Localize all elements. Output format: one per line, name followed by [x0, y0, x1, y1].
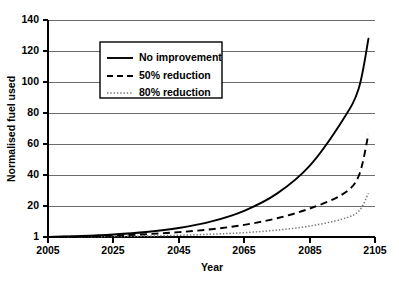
chart-figure: 140 120 100 80 60 40 20 1 2005 2025 2045…: [0, 0, 399, 283]
legend-label-50-percent-reduction: 50% reduction: [139, 69, 211, 81]
y-tick-label-60: 60: [27, 137, 39, 149]
x-axis-title: Year: [201, 261, 223, 273]
legend-label-no-improvement: No improvement: [139, 51, 222, 63]
y-tick-label-1: 1: [33, 230, 39, 242]
y-tick-label-120: 120: [21, 44, 39, 56]
x-tick-label-2005: 2005: [36, 244, 60, 256]
y-tick-label-100: 100: [21, 75, 39, 87]
y-tick-label-140: 140: [21, 13, 39, 25]
legend-label-80-percent-reduction: 80% reduction: [139, 86, 211, 98]
y-tick-label-80: 80: [27, 106, 39, 118]
x-tick-label-2105: 2105: [363, 244, 387, 256]
fuel-projection-line-chart: 140 120 100 80 60 40 20 1 2005 2025 2045…: [0, 0, 399, 283]
y-axis-title: Normalised fuel used: [5, 76, 17, 182]
y-tick-label-40: 40: [27, 168, 39, 180]
x-tick-label-2045: 2045: [167, 244, 191, 256]
x-tick-label-2085: 2085: [298, 244, 322, 256]
chart-legend: No improvement 50% reduction 80% reducti…: [100, 42, 222, 98]
y-tick-label-20: 20: [27, 199, 39, 211]
x-tick-label-2065: 2065: [232, 244, 256, 256]
x-tick-label-2025: 2025: [101, 244, 125, 256]
